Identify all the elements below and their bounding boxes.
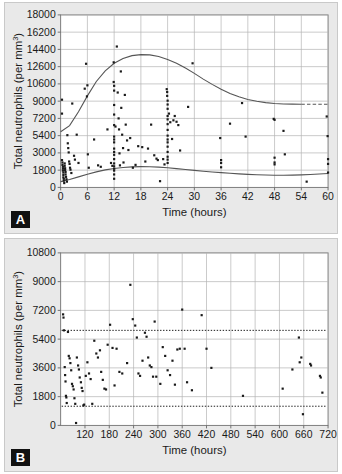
- y-tick-label: 5400: [33, 334, 56, 345]
- data-point: [177, 124, 179, 126]
- data-point: [299, 361, 301, 363]
- data-point: [68, 163, 70, 165]
- data-point: [159, 383, 161, 385]
- data-point: [220, 166, 222, 168]
- data-point: [167, 100, 169, 102]
- y-axis-title: Total neutrophils (per mm3): [11, 33, 24, 170]
- data-point: [167, 103, 169, 105]
- data-point: [84, 88, 86, 90]
- data-point: [75, 422, 77, 424]
- data-point: [114, 125, 116, 127]
- chart-a-scatter-plot: 0180030005400720090001060012600144001620…: [5, 3, 337, 233]
- data-point: [174, 384, 176, 386]
- y-tick-label: 7200: [33, 113, 56, 124]
- y-tick-label: 7200: [33, 305, 56, 316]
- y-tick-label: 0: [50, 420, 56, 431]
- data-point: [164, 355, 166, 357]
- data-point: [95, 352, 97, 354]
- data-point: [167, 123, 169, 125]
- data-point: [61, 113, 63, 115]
- data-point: [111, 347, 113, 349]
- panel-b-tag: B: [11, 449, 30, 466]
- y-tick-label: 10800: [27, 247, 56, 258]
- data-point: [306, 181, 308, 183]
- data-point: [181, 308, 183, 310]
- data-point: [184, 348, 186, 350]
- data-point: [74, 403, 76, 405]
- data-point: [64, 165, 66, 167]
- data-point: [69, 169, 71, 171]
- panel-b: 0180036005400720090001080012018024030036…: [4, 238, 338, 472]
- data-point: [162, 158, 164, 160]
- data-point: [171, 360, 173, 362]
- data-point: [167, 151, 169, 153]
- data-point: [105, 388, 107, 390]
- x-tick-label: 30: [189, 191, 201, 202]
- data-point: [241, 102, 243, 104]
- x-tick-label: 36: [215, 191, 227, 202]
- data-point: [113, 136, 115, 138]
- data-point: [326, 115, 328, 117]
- data-point: [76, 356, 78, 358]
- data-point: [65, 178, 67, 180]
- y-axis-title-main: Total neutrophils (per mm: [12, 41, 24, 170]
- data-point: [186, 381, 188, 383]
- data-point: [86, 84, 88, 86]
- data-point: [97, 164, 99, 166]
- y-tick-label: 1800: [33, 391, 56, 402]
- data-point: [162, 346, 164, 348]
- data-point: [150, 366, 152, 368]
- data-point: [327, 158, 329, 160]
- data-point: [63, 182, 65, 184]
- x-tick-label: 42: [242, 191, 254, 202]
- data-point: [97, 356, 99, 358]
- y-tick-label: 18000: [27, 9, 56, 20]
- y-tick-label: 5400: [33, 130, 56, 141]
- data-point: [64, 162, 66, 164]
- data-point: [110, 162, 112, 164]
- data-point: [66, 134, 68, 136]
- data-point: [68, 355, 70, 357]
- x-tick-label: 600: [271, 429, 289, 440]
- data-point: [118, 117, 120, 119]
- x-tick-label: 6: [85, 191, 91, 202]
- data-point: [81, 387, 83, 389]
- y-axis-title-suffix: ): [12, 271, 24, 275]
- y-tick-label: 1800: [33, 165, 56, 176]
- data-point: [61, 159, 63, 161]
- data-point: [144, 160, 146, 162]
- data-point: [73, 397, 75, 399]
- data-point: [220, 162, 222, 164]
- data-point: [167, 115, 169, 117]
- x-tick-label: 300: [149, 429, 167, 440]
- data-point: [113, 162, 115, 164]
- x-tick-label: 240: [125, 429, 143, 440]
- data-point: [115, 348, 117, 350]
- data-point: [191, 389, 193, 391]
- data-point: [134, 324, 136, 326]
- x-tick-label: 120: [76, 429, 94, 440]
- data-point: [66, 181, 68, 183]
- panel-a-tag: A: [11, 211, 30, 228]
- data-point: [152, 376, 154, 378]
- panel-a: 0180030005400720090001060012600144001620…: [4, 2, 338, 234]
- data-point: [168, 113, 170, 115]
- y-axis-title: Total neutrophils (per mm3): [11, 271, 24, 408]
- y-axis-title-main: Total neutrophils (per mm: [12, 279, 24, 408]
- data-point: [300, 356, 302, 358]
- data-point: [113, 138, 115, 140]
- data-point: [86, 361, 88, 363]
- data-point: [167, 159, 169, 161]
- data-point: [175, 121, 177, 123]
- data-point: [113, 165, 115, 167]
- data-point: [284, 153, 286, 155]
- data-point: [157, 159, 159, 161]
- data-point: [167, 141, 169, 143]
- data-point: [167, 162, 169, 164]
- data-point: [167, 108, 169, 110]
- y-axis-title-suffix: ): [12, 33, 24, 37]
- data-point: [68, 160, 70, 162]
- data-point: [137, 372, 139, 374]
- data-point: [176, 348, 178, 350]
- data-point: [141, 360, 143, 362]
